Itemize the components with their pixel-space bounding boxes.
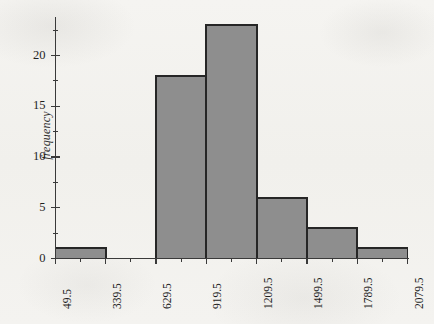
histogram-figure: frequency 05101520 49.5339.5629.5919.512… [0,0,434,324]
x-axis-tick-label: 919.5 [211,283,223,309]
bars-group [56,25,408,258]
histogram-canvas [0,0,434,324]
histogram-bar [357,248,407,258]
plot-area: frequency 05101520 49.5339.5629.5919.512… [0,0,434,324]
y-axis-tick-label: 20 [22,48,46,63]
x-axis-tick-label: 1209.5 [262,277,274,309]
y-axis-tick-label: 10 [22,149,46,164]
histogram-bar [307,228,357,258]
x-axis-tick-label: 1789.5 [362,277,374,309]
histogram-bar [156,76,206,259]
y-axis-tick-label: 0 [22,251,46,266]
histogram-bar [257,198,307,259]
y-axis-tick-label: 5 [22,200,46,215]
y-axis-title: frequency [39,76,54,196]
histogram-bar [56,248,106,258]
histogram-bar [206,25,256,258]
x-axis-tick-label: 1499.5 [312,277,324,309]
x-axis-tick-label: 629.5 [161,283,173,309]
y-axis-tick-label: 15 [22,98,46,113]
x-axis-tick-label: 2079.5 [413,277,425,309]
x-axis-tick-label: 49.5 [61,288,73,308]
x-axis-tick-label: 339.5 [111,283,123,309]
